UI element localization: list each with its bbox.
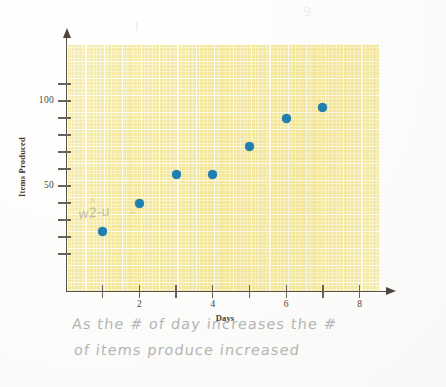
data-point xyxy=(282,114,291,123)
x-axis-arrow-icon xyxy=(386,287,396,295)
x-axis-line xyxy=(66,291,393,292)
x-axis-tick xyxy=(249,285,250,298)
y-axis-tick xyxy=(58,219,71,220)
x-axis-tick xyxy=(102,285,103,298)
y-axis-tick xyxy=(58,83,71,84)
y-axis-tick-label: 100 xyxy=(24,95,54,105)
y-axis-tick-label: 50 xyxy=(24,180,54,190)
y-axis-tick xyxy=(58,168,71,169)
x-axis-tick xyxy=(322,285,323,298)
handwritten-answer-line-1: As the # of day increases the # xyxy=(71,316,338,332)
y-axis-tick xyxy=(58,100,71,101)
y-axis-title: Items Produced xyxy=(17,117,27,217)
x-axis-tick-label: 4 xyxy=(200,299,226,309)
y-axis-tick xyxy=(58,134,71,135)
y-axis-tick xyxy=(58,236,71,237)
page-smudge-left xyxy=(136,22,138,31)
x-axis-tick xyxy=(359,285,360,298)
x-axis-tick xyxy=(139,285,140,298)
y-axis-tick xyxy=(58,253,71,254)
x-axis-tick-label: 6 xyxy=(273,299,299,309)
data-point xyxy=(172,170,181,179)
scatter-plot-figure: 50100 2468 Items Produced Days ^ w2-u ⌐ … xyxy=(0,0,446,387)
x-axis-tick xyxy=(286,285,287,298)
x-axis-tick xyxy=(212,285,213,298)
y-axis-tick xyxy=(58,185,71,186)
data-point xyxy=(135,199,144,208)
y-axis-tick xyxy=(58,117,71,118)
x-axis-tick-label: 2 xyxy=(126,299,152,309)
y-axis-tick xyxy=(58,202,71,203)
y-axis-arrow-icon xyxy=(63,28,71,38)
plot-grid-area xyxy=(67,44,379,292)
page-smudge-top: 9 xyxy=(303,4,312,19)
x-axis-tick xyxy=(175,285,176,298)
x-axis-tick-label: 8 xyxy=(347,299,373,309)
handwritten-answer-line-2: of items produce increased xyxy=(73,342,301,358)
handwritten-tick-mark: ⌐ xyxy=(130,206,136,218)
y-axis-tick xyxy=(58,151,71,152)
data-point xyxy=(208,170,217,179)
